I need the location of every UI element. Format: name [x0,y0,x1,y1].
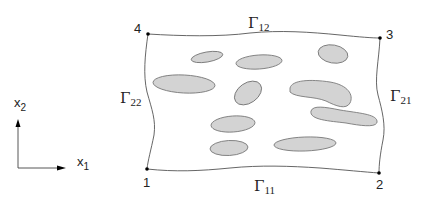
corner-label-1: 1 [143,175,150,190]
domain-diagram: 1 2 3 4 Γ12 Γ11 Γ21 Γ22 x2 x1 [0,0,423,206]
boundary-label-gamma-21: Γ21 [390,87,411,106]
inclusion [317,43,350,66]
boundary-right-gamma-21 [376,38,384,173]
inclusion [210,140,249,157]
corner-label-2-text: 2 [376,177,383,192]
boundary-label-gamma-22: Γ22 [120,89,141,108]
inclusion [190,49,223,64]
inclusion [153,73,216,94]
corner-point-3 [378,36,382,40]
boundary-left-gamma-22 [145,34,155,169]
axis-label-x2: x2 [14,95,27,113]
corner-label-4: 4 [134,21,141,36]
x1-arrowhead-icon [57,166,66,171]
inclusions [153,43,377,157]
corner-point-1 [145,167,149,171]
coordinate-axes: x2 x1 [14,95,90,172]
inclusion [290,80,351,106]
axis-label-x1: x1 [77,154,90,172]
inclusion [311,107,377,126]
boundary-label-gamma-12: Γ12 [248,14,269,33]
inclusion [274,136,336,152]
boundary-label-gamma-11: Γ11 [254,177,275,196]
corner-point-4 [146,32,150,36]
inclusion [236,53,283,70]
x2-arrowhead-icon [16,119,21,127]
inclusion [210,114,255,133]
inclusion [230,76,266,110]
boundary-bottom-gamma-11 [147,166,379,173]
corner-label-3: 3 [386,27,393,42]
corner-point-2 [377,171,381,175]
